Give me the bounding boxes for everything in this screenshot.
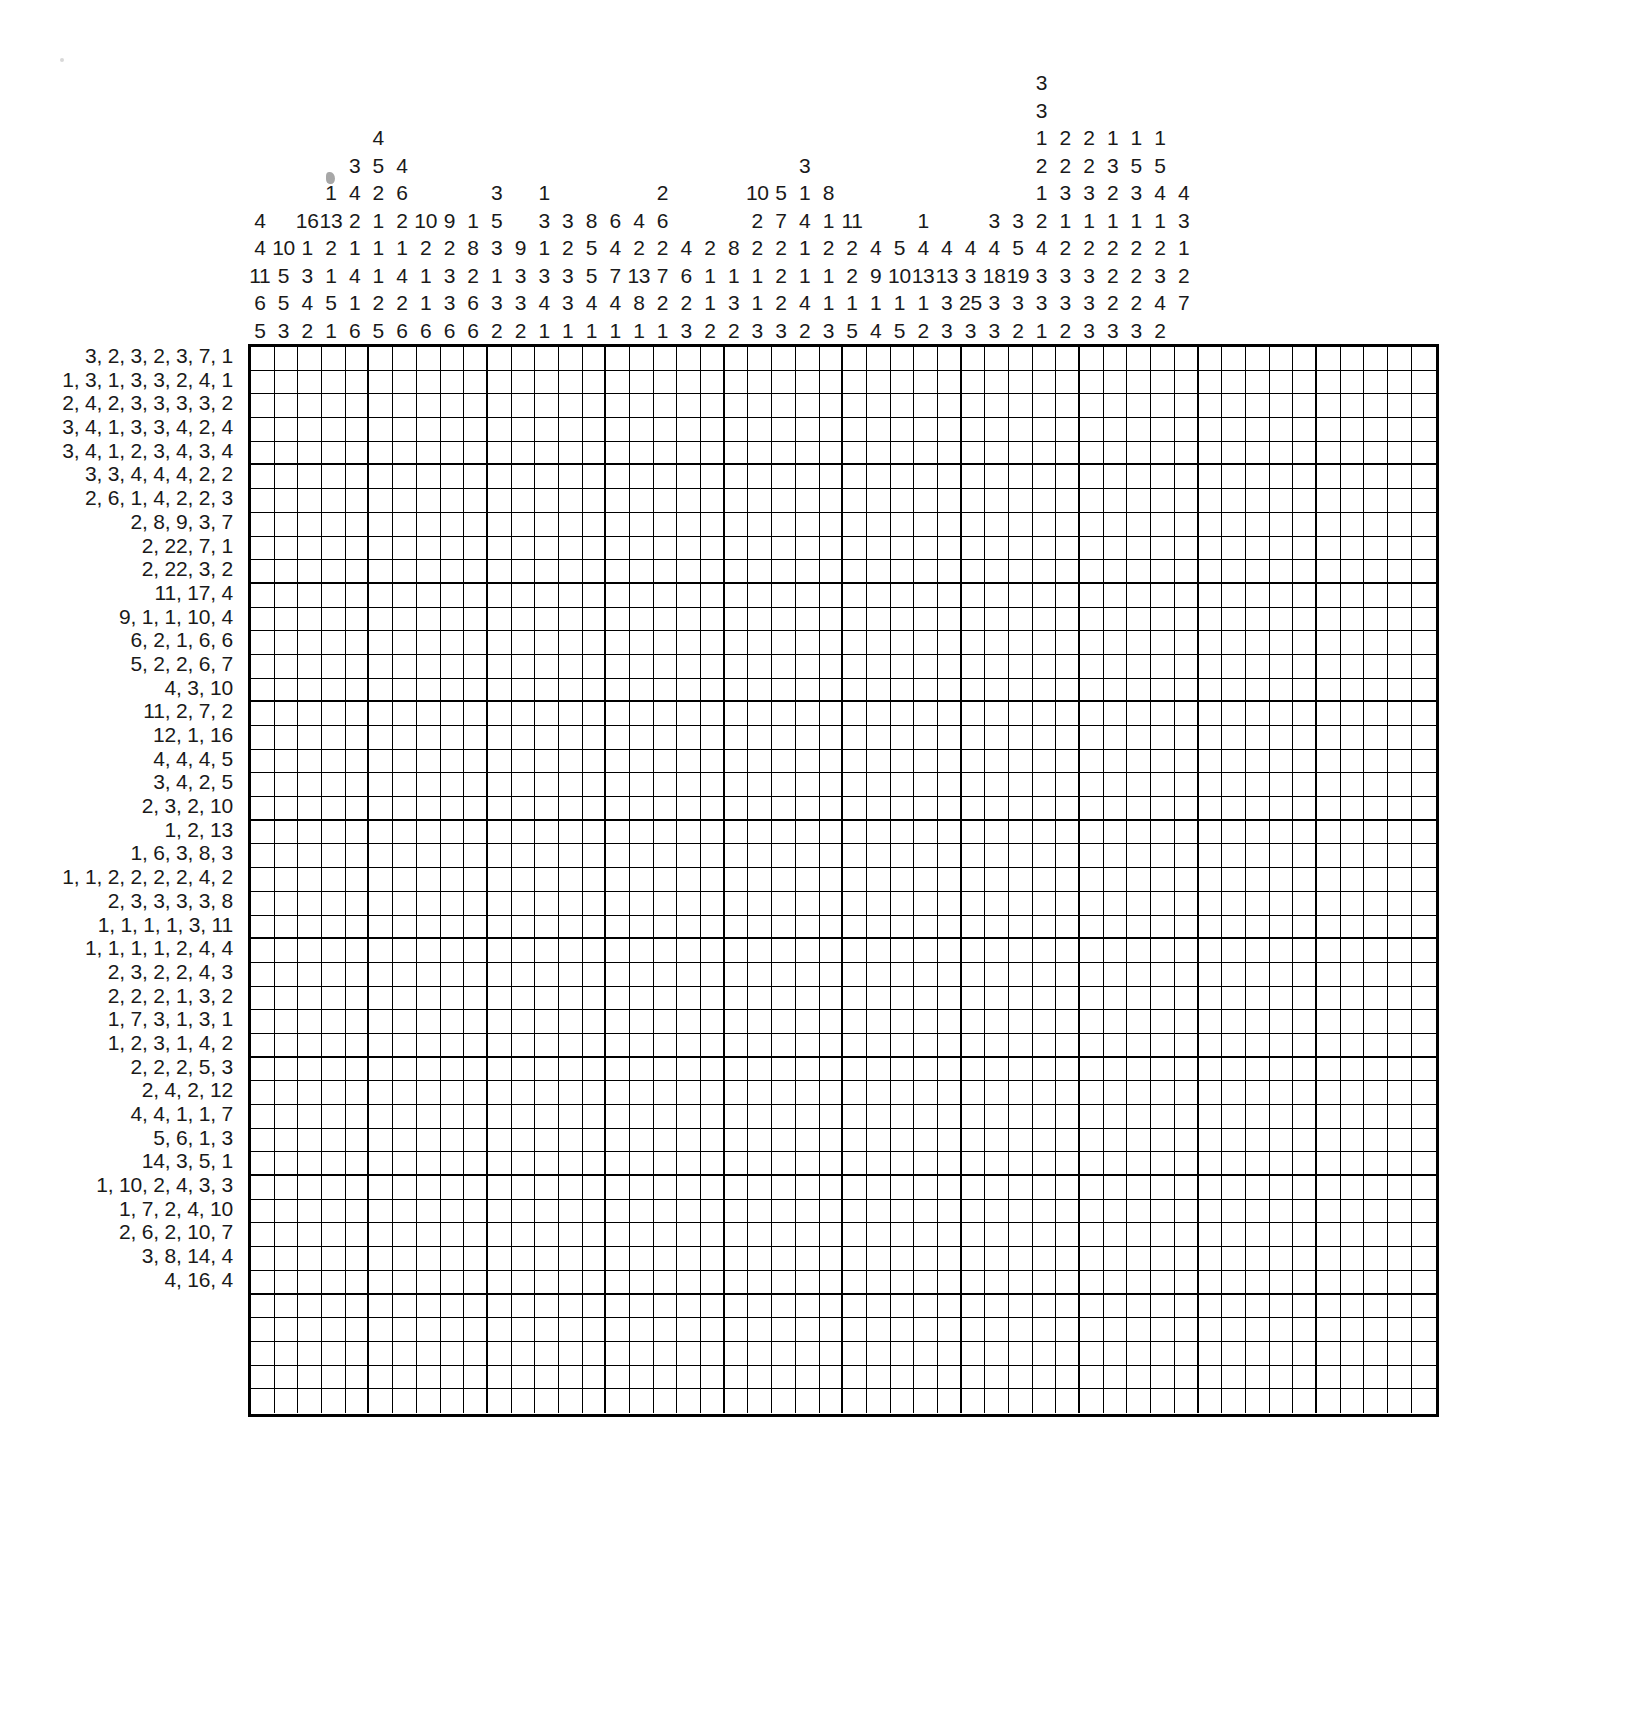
grid-cell[interactable] [1412,892,1436,915]
grid-cell[interactable] [1364,1366,1388,1389]
grid-cell[interactable] [985,1034,1009,1056]
grid-cell[interactable] [1388,1342,1412,1365]
grid-cell[interactable] [606,347,630,370]
grid-cell[interactable] [1127,987,1151,1010]
grid-cell[interactable] [1056,892,1080,915]
grid-cell[interactable] [1199,560,1223,582]
grid-cell[interactable] [1364,1223,1388,1246]
grid-cell[interactable] [512,442,536,464]
grid-cell[interactable] [772,797,796,819]
grid-cell[interactable] [1412,1129,1436,1152]
grid-cell[interactable] [1104,655,1128,678]
grid-cell[interactable] [985,1129,1009,1152]
grid-cell[interactable] [1151,1176,1175,1199]
grid-cell[interactable] [606,489,630,512]
grid-cell[interactable] [1246,750,1270,773]
grid-row[interactable] [251,1010,1436,1034]
grid-cell[interactable] [938,442,962,464]
grid-cell[interactable] [677,750,701,773]
grid-cell[interactable] [488,916,512,938]
grid-cell[interactable] [867,844,891,867]
grid-cell[interactable] [1056,1200,1080,1223]
grid-cell[interactable] [369,1034,393,1056]
grid-cell[interactable] [322,773,346,796]
grid-cell[interactable] [1151,347,1175,370]
grid-cell[interactable] [298,1342,322,1365]
grid-cell[interactable] [1364,655,1388,678]
grid-cell[interactable] [867,1342,891,1365]
grid-cell[interactable] [1222,679,1246,701]
grid-cell[interactable] [1151,726,1175,749]
grid-cell[interactable] [322,1129,346,1152]
grid-cell[interactable] [464,1366,488,1389]
grid-cell[interactable] [630,679,654,701]
grid-cell[interactable] [322,371,346,394]
grid-cell[interactable] [1293,797,1317,819]
grid-cell[interactable] [559,489,583,512]
grid-cell[interactable] [1199,1176,1223,1199]
grid-cell[interactable] [867,347,891,370]
grid-cell[interactable] [1056,797,1080,819]
grid-cell[interactable] [820,821,844,844]
grid-cell[interactable] [630,1295,654,1318]
grid-cell[interactable] [322,1247,346,1270]
grid-cell[interactable] [512,655,536,678]
grid-cell[interactable] [1104,1176,1128,1199]
grid-cell[interactable] [1388,371,1412,394]
grid-cell[interactable] [1175,347,1199,370]
grid-cell[interactable] [772,702,796,725]
grid-cell[interactable] [1388,442,1412,464]
grid-cell[interactable] [1080,371,1104,394]
grid-cell[interactable] [1341,939,1365,962]
grid-cell[interactable] [677,1105,701,1128]
grid-cell[interactable] [1412,987,1436,1010]
grid-cell[interactable] [559,347,583,370]
grid-cell[interactable] [796,1247,820,1270]
grid-cell[interactable] [417,489,441,512]
grid-row[interactable] [251,1223,1436,1247]
grid-row[interactable] [251,465,1436,489]
grid-cell[interactable] [393,750,417,773]
grid-cell[interactable] [867,655,891,678]
grid-cell[interactable] [1270,773,1294,796]
grid-cell[interactable] [1270,513,1294,536]
grid-cell[interactable] [843,347,867,370]
grid-cell[interactable] [559,1152,583,1174]
grid-cell[interactable] [843,892,867,915]
grid-cell[interactable] [630,442,654,464]
grid-cell[interactable] [535,1129,559,1152]
grid-cell[interactable] [867,797,891,819]
grid-cell[interactable] [1412,1034,1436,1056]
grid-cell[interactable] [322,1152,346,1174]
grid-cell[interactable] [843,939,867,962]
grid-cell[interactable] [985,1342,1009,1365]
grid-cell[interactable] [1270,868,1294,891]
grid-cell[interactable] [1104,773,1128,796]
grid-row[interactable] [251,1058,1436,1082]
grid-cell[interactable] [654,371,678,394]
grid-cell[interactable] [1033,821,1057,844]
grid-cell[interactable] [1175,442,1199,464]
grid-cell[interactable] [1222,1223,1246,1246]
grid-cell[interactable] [1080,418,1104,441]
grid-cell[interactable] [298,844,322,867]
grid-cell[interactable] [1293,1152,1317,1174]
grid-cell[interactable] [251,1081,275,1104]
grid-cell[interactable] [1151,1058,1175,1081]
grid-cell[interactable] [559,1081,583,1104]
grid-cell[interactable] [251,465,275,488]
grid-cell[interactable] [725,1129,749,1152]
grid-cell[interactable] [1341,442,1365,464]
grid-cell[interactable] [1175,1247,1199,1270]
grid-cell[interactable] [606,1223,630,1246]
grid-cell[interactable] [630,347,654,370]
grid-cell[interactable] [1317,1223,1341,1246]
grid-cell[interactable] [535,489,559,512]
grid-cell[interactable] [1341,560,1365,582]
grid-cell[interactable] [251,1295,275,1318]
grid-cell[interactable] [914,797,938,819]
grid-cell[interactable] [748,844,772,867]
grid-cell[interactable] [1364,442,1388,464]
grid-cell[interactable] [914,1105,938,1128]
grid-cell[interactable] [275,489,299,512]
